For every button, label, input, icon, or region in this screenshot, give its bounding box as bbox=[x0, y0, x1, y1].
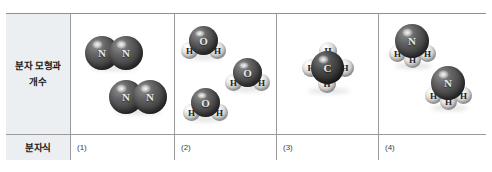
atom-highlight bbox=[116, 40, 128, 49]
atom-symbol: C bbox=[311, 62, 344, 74]
formula-answer-2: (2) bbox=[181, 143, 191, 152]
model-cell-3: HHHHC bbox=[277, 14, 379, 134]
atom-n: N bbox=[133, 80, 167, 114]
row-header-formula: 분자식 bbox=[6, 135, 71, 160]
molecule-canvas-2: HHOHHOHHO bbox=[175, 14, 276, 134]
molecule-canvas-1: NNNN bbox=[71, 14, 174, 134]
atom-symbol: N bbox=[431, 77, 465, 89]
formula-cell-1[interactable]: (1) bbox=[71, 135, 175, 160]
formula-answer-3: (3) bbox=[283, 143, 293, 152]
atom-o: O bbox=[191, 88, 220, 117]
table-row-formula: 분자식 (1) (2) (3) (4) bbox=[6, 134, 486, 160]
model-cell-2: HHOHHOHHO bbox=[175, 14, 277, 134]
row-header-formula-label: 분자식 bbox=[25, 140, 51, 156]
atom-o: O bbox=[233, 58, 262, 87]
row-header-models-line2: 개수 bbox=[29, 74, 47, 90]
atom-highlight bbox=[116, 84, 128, 93]
atom-highlight bbox=[402, 28, 414, 37]
row-header-models: 분자 모형과 개수 bbox=[6, 14, 71, 134]
atom-c: C bbox=[311, 51, 344, 84]
atom-highlight bbox=[318, 55, 329, 64]
atom-symbol: N bbox=[395, 35, 429, 47]
formula-cell-4[interactable]: (4) bbox=[379, 135, 486, 160]
atom-symbol: O bbox=[233, 67, 262, 79]
molecule-canvas-3: HHHHC bbox=[277, 14, 378, 134]
atom-highlight bbox=[197, 92, 207, 100]
molecule-table: 분자 모형과 개수 NNNN HHOHHOHHO HHHHC HHHNHHHN … bbox=[6, 13, 486, 160]
atom-symbol: O bbox=[189, 35, 218, 47]
atom-highlight bbox=[140, 84, 152, 93]
atom-n: N bbox=[109, 36, 143, 70]
formula-cell-3[interactable]: (3) bbox=[277, 135, 379, 160]
atom-symbol: O bbox=[191, 97, 220, 109]
atom-symbol: N bbox=[133, 91, 167, 103]
formula-cell-2[interactable]: (2) bbox=[175, 135, 277, 160]
atom-highlight bbox=[92, 40, 104, 49]
model-cell-4: HHHNHHHN bbox=[379, 14, 486, 134]
molecule-canvas-4: HHHNHHHN bbox=[379, 14, 486, 134]
formula-answer-1: (1) bbox=[77, 143, 87, 152]
formula-answer-4: (4) bbox=[385, 143, 395, 152]
row-header-models-line1: 분자 모형과 bbox=[15, 58, 61, 74]
table-row-models: 분자 모형과 개수 NNNN HHOHHOHHO HHHHC HHHNHHHN bbox=[6, 14, 486, 134]
atom-o: O bbox=[189, 26, 218, 55]
atom-highlight bbox=[323, 45, 329, 50]
atom-highlight bbox=[239, 62, 249, 70]
atom-n: N bbox=[431, 66, 465, 100]
model-cell-1: NNNN bbox=[71, 14, 175, 134]
atom-symbol: N bbox=[109, 47, 143, 59]
atom-highlight bbox=[195, 30, 205, 38]
atom-highlight bbox=[438, 70, 450, 79]
atom-n: N bbox=[395, 24, 429, 58]
